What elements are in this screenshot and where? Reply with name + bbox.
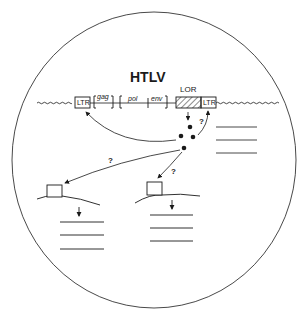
- arrow-to-host-gene-1: [65, 150, 180, 183]
- gene-gag-label: gag: [97, 93, 109, 100]
- host-gene-2: [135, 182, 200, 241]
- arrow-to-left-ltr: [86, 112, 176, 141]
- arrow-to-host-gene-2: [158, 152, 182, 178]
- cell-circle: [12, 12, 296, 308]
- ltr-left-label: LTR: [77, 99, 90, 106]
- question-mark-gene-2: ?: [171, 168, 176, 176]
- viral-mrna-lines: [216, 127, 257, 153]
- lor-label: LOR: [180, 86, 196, 94]
- host-dna-left: [37, 102, 72, 104]
- diagram-title: HTLV: [130, 70, 166, 84]
- gene-env-label: env: [151, 95, 162, 102]
- question-mark-gene-1: ?: [108, 157, 113, 165]
- protein-dots: [179, 125, 196, 151]
- diagram-canvas: [0, 0, 302, 312]
- question-mark-ltr: ?: [199, 118, 204, 126]
- gene-pol-label: pol: [128, 95, 137, 102]
- ltr-right-label: LTR: [203, 99, 216, 106]
- lor-box: [176, 97, 201, 108]
- host-dna-right: [216, 102, 279, 104]
- host-gene-1: [37, 185, 104, 249]
